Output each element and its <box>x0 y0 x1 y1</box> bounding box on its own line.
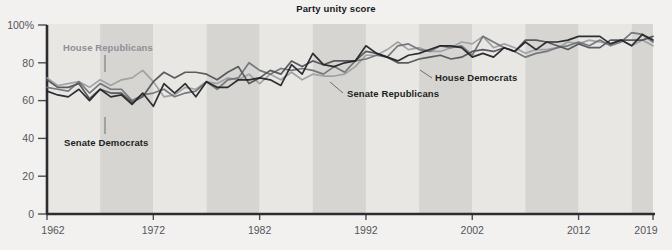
series-label-senate-democrats: Senate Democrats <box>64 137 149 148</box>
y-tick-label: 80 <box>22 57 34 69</box>
background-band <box>579 24 632 214</box>
y-axis-tick-labels: 020406080100% <box>7 19 34 220</box>
x-tick-label: 1982 <box>248 224 272 236</box>
y-tick-label: 40 <box>22 132 34 144</box>
background-band <box>419 24 472 214</box>
x-tick-label: 1992 <box>354 224 378 236</box>
x-axis-tick-labels: 1962197219821992200220122019 <box>41 224 658 236</box>
series-label-senate-republicans: Senate Republicans <box>347 88 439 99</box>
background-band <box>206 24 259 214</box>
x-tick-label: 2019 <box>634 224 658 236</box>
background-band <box>632 24 653 214</box>
series-label-house-republicans: House Republicans <box>63 42 153 53</box>
background-band <box>313 24 366 214</box>
background-band <box>260 24 313 214</box>
x-tick-label: 2012 <box>567 224 591 236</box>
background-band <box>525 24 578 214</box>
background-band <box>153 24 206 214</box>
series-label-house-democrats: House Democrats <box>435 72 517 83</box>
y-tick-label: 60 <box>22 94 34 106</box>
x-tick-label: 1962 <box>41 224 65 236</box>
y-tick-label: 100% <box>7 19 34 31</box>
y-tick-label: 0 <box>28 208 34 220</box>
y-tick-label: 20 <box>22 170 34 182</box>
x-tick-label: 1972 <box>142 224 166 236</box>
chart-container: Party unity score 020406080100% 19621972… <box>0 0 672 250</box>
party-unity-line-chart: 020406080100% 19621972198219922002201220… <box>0 0 672 250</box>
x-tick-label: 2002 <box>461 224 485 236</box>
